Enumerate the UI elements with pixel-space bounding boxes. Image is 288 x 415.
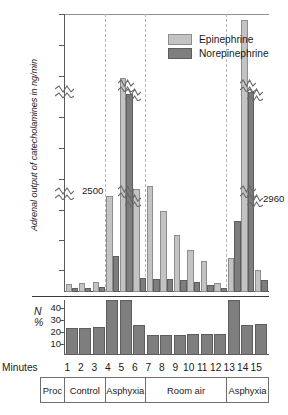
minute-tick-11: 11	[196, 362, 210, 373]
bar-epinephrine	[174, 235, 181, 292]
minute-tick-13: 13	[223, 362, 237, 373]
y-tick	[59, 240, 64, 241]
legend-item-epinephrine: Epinephrine	[168, 34, 269, 45]
minute-tick-4: 4	[101, 362, 115, 373]
y-axis-break-lower	[55, 186, 74, 199]
minute-tick-3: 3	[88, 362, 102, 373]
n-tick-label: 10	[21, 339, 61, 348]
bar-epinephrine	[201, 261, 208, 292]
bar-epinephrine	[106, 196, 113, 292]
y-axis-title: Adrenal output of catecholamines in ng/m…	[29, 15, 39, 275]
bar-break-marker	[247, 193, 263, 206]
procedure-header-cell: Proc	[41, 378, 65, 402]
n-bar	[160, 335, 172, 355]
panel-divider-rule	[32, 296, 269, 297]
legend-swatch-norepinephrine	[168, 48, 192, 59]
minutes-axis-label: Minutes	[2, 362, 38, 373]
n-bar	[66, 328, 78, 355]
annotation-2500: 2500	[82, 186, 103, 196]
y-tick	[59, 270, 64, 271]
y-axis-line	[64, 14, 65, 292]
bar-norepinephrine	[85, 288, 91, 292]
bar-norepinephrine	[113, 256, 120, 292]
y-tick	[59, 117, 64, 118]
n-tick-label: 30	[21, 315, 61, 324]
bar-epinephrine	[147, 186, 154, 292]
n-bar	[228, 300, 240, 355]
n-bar	[106, 300, 118, 355]
n-bar	[187, 334, 199, 355]
n-bar	[214, 334, 226, 355]
n-tick-label: 20	[21, 327, 61, 336]
legend-label: Norepinephrine	[199, 48, 269, 59]
y-tick	[59, 76, 64, 77]
bar-norepinephrine	[140, 278, 147, 292]
n-bar	[255, 324, 267, 355]
legend-label: Epinephrine	[199, 34, 253, 45]
bar-norepinephrine	[194, 282, 201, 292]
n-bar	[241, 325, 253, 355]
y-axis-break-upper	[55, 84, 74, 97]
legend: Epinephrine Norepinephrine	[168, 34, 269, 62]
bar-norepinephrine	[207, 285, 214, 292]
procedure-cell-control: Control	[65, 378, 106, 402]
bar-epinephrine	[187, 250, 194, 292]
bar-epinephrine	[214, 283, 221, 292]
figure-root: Adrenal output of catecholamines in ng/m…	[0, 0, 288, 415]
y-tick	[59, 179, 64, 180]
bar-norepinephrine	[72, 288, 78, 292]
bar-norepinephrine	[261, 280, 268, 292]
n-bar	[133, 325, 145, 355]
minute-tick-1: 1	[61, 362, 75, 373]
bar-break-marker	[247, 87, 263, 100]
plot-top-rule	[64, 14, 269, 15]
bar-norepinephrine	[180, 280, 187, 292]
procedure-table: Proc Control Asphyxia Room air Asphyxia	[40, 377, 269, 403]
bar-norepinephrine	[99, 287, 105, 292]
bar-epinephrine	[255, 270, 262, 292]
n-bar	[201, 334, 213, 355]
n-bar	[147, 335, 159, 355]
n-bar	[120, 300, 132, 355]
y-tick	[59, 45, 64, 46]
n-bar	[93, 327, 105, 355]
minute-tick-7: 7	[142, 362, 156, 373]
n-bar	[174, 335, 186, 355]
procedure-cell-asphyxia-1: Asphyxia	[106, 378, 147, 402]
minute-tick-10: 10	[182, 362, 196, 373]
y-tick	[59, 210, 64, 211]
minute-tick-8: 8	[155, 362, 169, 373]
y-tick	[59, 14, 64, 15]
n-tick-label: 40	[21, 303, 61, 312]
bar-norepinephrine	[167, 279, 174, 292]
minute-tick-9: 9	[169, 362, 183, 373]
bar-epinephrine	[228, 258, 235, 292]
bar-epinephrine	[160, 211, 167, 292]
minute-tick-12: 12	[209, 362, 223, 373]
bar-norepinephrine	[221, 288, 228, 292]
y-tick	[59, 148, 64, 149]
legend-item-norepinephrine: Norepinephrine	[168, 48, 269, 59]
minute-tick-2: 2	[74, 362, 88, 373]
main-plot-area: 11,000 10,500 10,000 5000 4500 4000 1500	[64, 14, 269, 292]
bar-norepinephrine	[153, 279, 160, 292]
annotation-2960: 2960	[263, 194, 284, 204]
legend-swatch-epinephrine	[168, 34, 192, 45]
procedure-cell-room-air: Room air	[146, 378, 227, 402]
minute-tick-6: 6	[128, 362, 142, 373]
bar-break-marker	[125, 87, 141, 100]
bar-break-marker	[125, 193, 141, 206]
minute-tick-15: 15	[250, 362, 264, 373]
n-bar	[79, 328, 91, 355]
minute-tick-5: 5	[115, 362, 129, 373]
bar-norepinephrine	[234, 221, 241, 292]
procedure-cell-asphyxia-2: Asphyxia	[227, 378, 268, 402]
minute-tick-14: 14	[236, 362, 250, 373]
percent-n-panel: 10 20 30 40	[64, 300, 269, 355]
